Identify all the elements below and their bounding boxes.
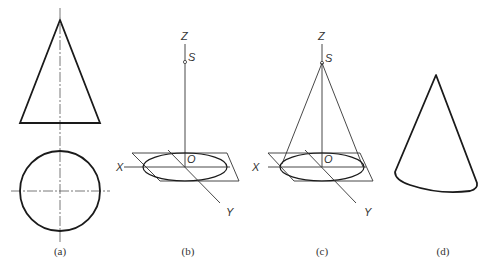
s-label: S bbox=[188, 51, 196, 63]
panel-c: Z S X Y O (c) bbox=[251, 30, 373, 258]
cone-projection-figure: (a) Z S X Y O (b) Z S X Y O (c) (d) bbox=[0, 0, 483, 271]
caption-d: (d) bbox=[437, 245, 450, 258]
cone-left-generator bbox=[282, 63, 322, 164]
z-label: Z bbox=[317, 30, 326, 42]
z-label: Z bbox=[180, 30, 189, 42]
pictorial-cone bbox=[395, 75, 477, 192]
o-label: O bbox=[187, 153, 196, 165]
x-label: X bbox=[251, 161, 260, 173]
y-label: Y bbox=[226, 206, 234, 218]
caption-a: (a) bbox=[54, 245, 67, 258]
o-label: O bbox=[324, 153, 333, 165]
panel-a: (a) bbox=[11, 8, 110, 258]
s-label: S bbox=[325, 52, 333, 64]
cone-right-generator bbox=[322, 63, 363, 167]
panel-b: Z S X Y O (b) bbox=[115, 30, 239, 258]
caption-b: (b) bbox=[182, 245, 195, 258]
apex-point-s bbox=[183, 60, 186, 63]
caption-c: (c) bbox=[316, 245, 329, 258]
y-label: Y bbox=[364, 206, 372, 218]
panel-d: (d) bbox=[395, 75, 477, 258]
x-label: X bbox=[115, 161, 124, 173]
